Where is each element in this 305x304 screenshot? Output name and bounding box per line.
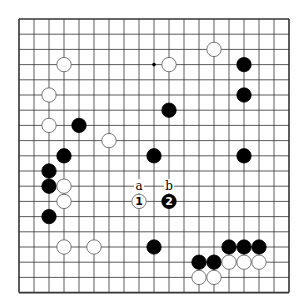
- white-stone: [252, 255, 266, 269]
- black-stone: [42, 179, 56, 193]
- point-label-b: b: [165, 179, 173, 193]
- star-points: [152, 63, 156, 67]
- white-stone: [57, 179, 71, 193]
- white-stone: [57, 240, 71, 254]
- white-stone: [42, 118, 56, 132]
- go-board: ab 12: [0, 0, 305, 304]
- white-stone: [162, 57, 176, 71]
- white-stone: [192, 270, 206, 284]
- white-stone: [102, 133, 116, 147]
- black-stone: [147, 149, 161, 163]
- white-stone: 1: [132, 194, 146, 208]
- white-stone: [222, 255, 236, 269]
- move-number: 1: [135, 195, 143, 208]
- white-stone: [207, 42, 221, 56]
- black-stone: [162, 103, 176, 117]
- white-stone: [237, 255, 251, 269]
- black-stone: [72, 118, 86, 132]
- black-stone: [237, 149, 251, 163]
- black-stone: 2: [162, 194, 176, 208]
- black-stone: [192, 255, 206, 269]
- black-stone: [207, 255, 221, 269]
- black-stone: [42, 164, 56, 178]
- white-stone: [87, 240, 101, 254]
- black-stone: [57, 149, 71, 163]
- star-point: [152, 63, 156, 67]
- black-stone: [42, 209, 56, 223]
- move-number: 2: [165, 195, 173, 208]
- black-stone: [252, 240, 266, 254]
- black-stone: [237, 240, 251, 254]
- white-stone: [207, 270, 221, 284]
- black-stone: [222, 240, 236, 254]
- white-stone: [42, 88, 56, 102]
- white-stone: [57, 194, 71, 208]
- black-stone: [237, 88, 251, 102]
- point-label-a: a: [135, 179, 142, 193]
- black-stone: [237, 57, 251, 71]
- black-stone: [147, 240, 161, 254]
- white-stone: [57, 57, 71, 71]
